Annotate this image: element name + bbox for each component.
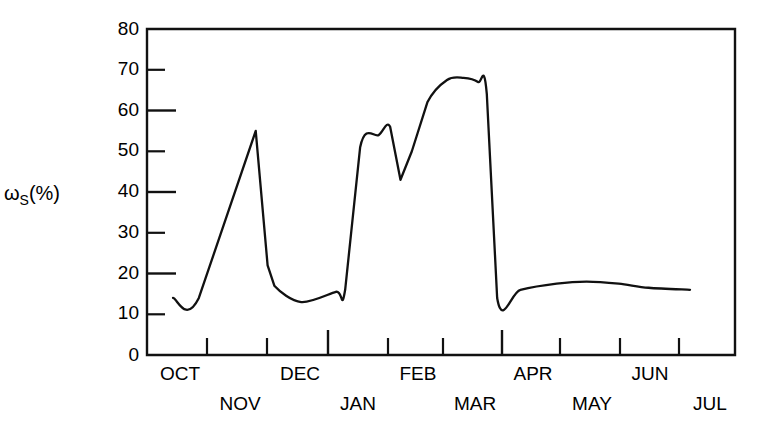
y-tick-label-60: 60 [118,99,139,120]
chart-container: 0 10 20 30 40 50 60 70 80 ωS(%) [0,0,763,436]
x-label-jul: JUL [693,393,727,414]
line-chart: 0 10 20 30 40 50 60 70 80 ωS(%) [0,0,763,436]
x-label-jun: JUN [632,363,669,384]
y-axis-title-omega: ω [4,182,20,204]
x-label-mar: MAR [454,393,496,414]
y-axis-ticks [147,70,176,314]
x-label-may: MAY [572,393,612,414]
x-axis-labels-lower: NOV JAN MAR MAY JUL [219,393,726,414]
x-label-dec: DEC [280,363,320,384]
y-tick-label-40: 40 [118,180,139,201]
y-axis-title: ωS(%) [4,182,60,208]
x-label-oct: OCT [160,363,201,384]
y-tick-label-50: 50 [118,139,139,160]
y-tick-label-70: 70 [118,58,139,79]
y-axis-title-text: ωS(%) [4,182,60,208]
x-axis-ticks [207,330,679,355]
y-axis-labels: 0 10 20 30 40 50 60 70 80 [118,18,139,365]
y-tick-label-30: 30 [118,221,139,242]
y-axis-title-subscript: S [20,192,29,208]
y-axis-title-suffix: (%) [29,182,60,204]
data-series-line [173,76,690,311]
x-label-apr: APR [513,363,552,384]
x-label-feb: FEB [400,363,437,384]
y-tick-label-80: 80 [118,18,139,39]
x-label-jan: JAN [340,393,376,414]
y-tick-label-20: 20 [118,262,139,283]
y-tick-label-0: 0 [128,344,139,365]
x-label-nov: NOV [219,393,261,414]
x-axis-labels-upper: OCT DEC FEB APR JUN [160,363,669,384]
y-tick-label-10: 10 [118,302,139,323]
